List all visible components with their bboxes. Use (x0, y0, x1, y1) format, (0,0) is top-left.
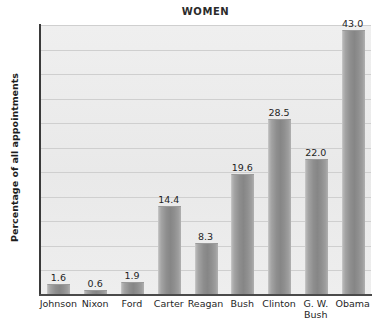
chart-title: WOMEN (40, 6, 371, 17)
x-axis-tick-label-line1: Ford (122, 298, 143, 309)
x-axis-tick-label-line2: Bush (289, 309, 343, 320)
gridline (40, 74, 371, 75)
x-axis-tick-label: Obama (326, 298, 377, 309)
bar-value-label: 1.9 (109, 271, 155, 281)
x-axis-tick-label-line1: Obama (335, 298, 369, 309)
bar-chart: WOMEN Percentage of all appointments 481… (0, 0, 377, 328)
x-axis-tick-label-line1: G. W. (303, 298, 328, 309)
plot-area (40, 25, 371, 295)
bar (231, 174, 254, 295)
y-axis-title: Percentage of all appointments (9, 73, 20, 243)
bar-value-label: 19.6 (219, 163, 265, 173)
bar (268, 119, 291, 295)
bar (342, 30, 365, 295)
bar (158, 206, 181, 295)
gridline (40, 25, 371, 26)
bar (195, 243, 218, 295)
bar-value-label: 22.0 (293, 148, 339, 158)
gridline (40, 123, 371, 124)
bar-value-label: 43.0 (330, 19, 376, 29)
y-axis-line (39, 24, 41, 296)
gridline (40, 99, 371, 100)
bar-value-label: 14.4 (146, 195, 192, 205)
bar (305, 159, 328, 295)
x-axis-line (39, 294, 372, 296)
x-axis-tick-label-line1: Bush (231, 298, 255, 309)
bar-value-label: 28.5 (256, 108, 302, 118)
bar-value-label: 8.3 (183, 232, 229, 242)
gridline (40, 50, 371, 51)
